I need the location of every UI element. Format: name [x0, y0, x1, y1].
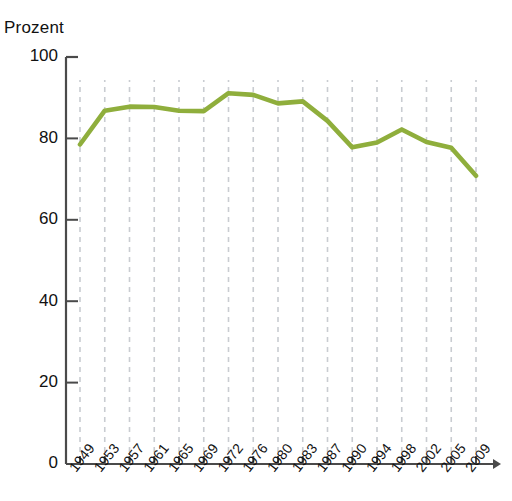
x-tick-label-1998: 1998: [388, 440, 420, 475]
x-tick-label-1980: 1980: [264, 440, 296, 475]
y-tick-label-60: 60: [39, 209, 58, 228]
x-tick-label-1965: 1965: [165, 440, 197, 475]
x-tick-label-1957: 1957: [115, 440, 147, 475]
y-tick-label-20: 20: [39, 372, 58, 391]
y-tick-label-40: 40: [39, 291, 58, 310]
x-tick-label-1976: 1976: [239, 440, 271, 475]
x-tick-label-1953: 1953: [91, 440, 123, 475]
x-tick-label-2005: 2005: [437, 440, 469, 475]
x-tick-label-1990: 1990: [338, 440, 370, 475]
x-tick-label-1969: 1969: [190, 440, 222, 475]
chart-container: Prozent 19491953195719611965196919721976…: [0, 0, 512, 501]
x-axis-labels-group: 1949195319571961196519691972197619801983…: [66, 440, 494, 475]
y-axis-ticks-group: [66, 138, 78, 464]
x-tick-label-1987: 1987: [313, 440, 345, 475]
axes-group: [66, 57, 501, 469]
x-tick-label-2009: 2009: [462, 440, 494, 475]
y-tick-label-100: 100: [30, 46, 58, 65]
y-tick-label-80: 80: [39, 128, 58, 147]
turnout-line-series: [80, 93, 476, 176]
y-axis-labels-group: 020406080100: [30, 46, 58, 472]
y-tick-label-0: 0: [49, 453, 58, 472]
x-tick-label-1949: 1949: [66, 440, 98, 475]
x-tick-label-1994: 1994: [363, 440, 395, 475]
x-tick-label-1983: 1983: [289, 440, 321, 475]
chart-canvas: 1949195319571961196519691972197619801983…: [0, 0, 512, 501]
x-tick-label-1961: 1961: [140, 440, 172, 475]
x-axis-arrow-icon: [493, 459, 501, 469]
x-tick-label-1972: 1972: [214, 440, 246, 475]
x-tick-label-2002: 2002: [412, 440, 444, 475]
